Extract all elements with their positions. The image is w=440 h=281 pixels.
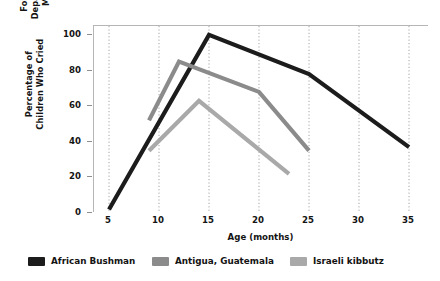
- legend-swatch-icon-2: [290, 257, 307, 266]
- legend-item-1[interactable]: Antigua, Guatemala: [152, 254, 274, 268]
- y-axis-title-line1: Percentage of Children Who Cried: [24, 34, 46, 134]
- legend-item-2[interactable]: Israeli kibbutz: [290, 254, 384, 268]
- y-tick-mark-40: [87, 141, 92, 142]
- y-tick-mark-60: [87, 105, 92, 106]
- y-tick-label-100: 100: [55, 29, 81, 39]
- plot-canvas: [94, 26, 429, 213]
- series-line-1: [149, 62, 309, 151]
- legend-label-1: Antigua, Guatemala: [175, 256, 274, 266]
- x-tick-label-5: 5: [93, 215, 123, 225]
- y-tick-label-40: 40: [55, 136, 81, 146]
- line-chart-figure: Percentage of Children Who Cried Followi…: [0, 0, 440, 281]
- y-tick-mark-0: [87, 212, 92, 213]
- x-tick-label-15: 15: [193, 215, 223, 225]
- y-axis-title: Percentage of Children Who Cried Followi…: [18, 0, 52, 134]
- y-tick-mark-20: [87, 176, 92, 177]
- y-tick-label-20: 20: [55, 171, 81, 181]
- legend-swatch-icon-1: [152, 257, 169, 266]
- y-tick-label-80: 80: [55, 65, 81, 75]
- y-tick-label-0: 0: [55, 207, 81, 217]
- x-tick-label-10: 10: [143, 215, 173, 225]
- x-tick-label-20: 20: [243, 215, 273, 225]
- legend-label-2: Israeli kibbutz: [313, 256, 384, 266]
- chart-legend: African BushmanAntigua, GuatemalaIsraeli…: [0, 252, 440, 272]
- x-tick-label-30: 30: [343, 215, 373, 225]
- y-tick-label-60: 60: [55, 100, 81, 110]
- x-tick-label-35: 35: [393, 215, 423, 225]
- y-axis-title-line2: Following Departure of Mother: [19, 0, 52, 34]
- legend-swatch-icon-0: [28, 257, 45, 266]
- x-axis-title: Age (months): [93, 232, 428, 242]
- plot-area: [93, 25, 428, 212]
- series-line-2: [149, 101, 289, 174]
- x-tick-label-25: 25: [293, 215, 323, 225]
- y-tick-mark-100: [87, 34, 92, 35]
- legend-label-0: African Bushman: [51, 256, 135, 266]
- y-tick-mark-80: [87, 70, 92, 71]
- legend-item-0[interactable]: African Bushman: [28, 254, 135, 268]
